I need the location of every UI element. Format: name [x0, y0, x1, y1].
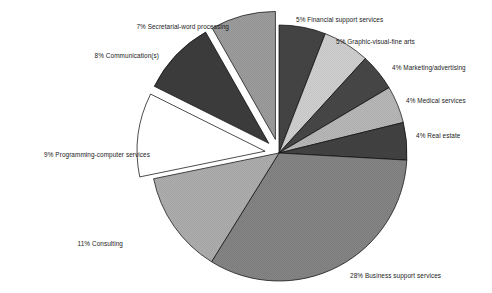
pie-slice-label: 7% Secretarial-word processing: [136, 22, 229, 31]
pie-slice-label: 8% Communication(s): [95, 51, 159, 60]
pie-slice-label: 4% Marketing/advertising: [392, 63, 466, 72]
pie-chart-canvas: [0, 0, 492, 293]
pie-slice-label: 9% Programming-computer services: [44, 150, 150, 159]
pie-slice-label: 4% Medical services: [406, 96, 466, 105]
pie-slice-label: 4% Real estate: [416, 131, 460, 140]
pie-slice-label: 11% Consulting: [78, 239, 123, 248]
pie-slice-label: 28% Business support services: [350, 271, 441, 280]
pie-slice-label: 5% Graphic-visual-fine arts: [336, 37, 415, 46]
pie-slice-label: 5% Financial support services: [296, 15, 383, 24]
pie-chart-figure: 5% Financial support services5% Graphic-…: [0, 0, 492, 293]
